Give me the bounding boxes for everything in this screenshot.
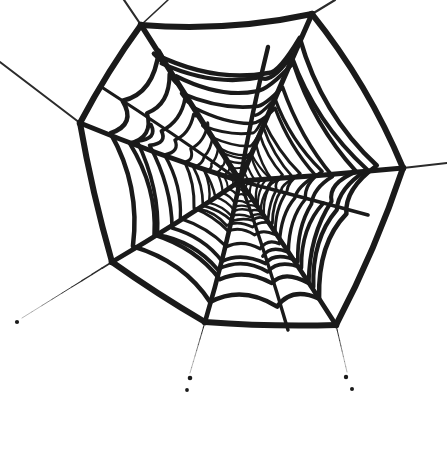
dot-lower-left (15, 320, 19, 324)
frame-anchor-lower-right (333, 322, 340, 329)
spider-web-figure (0, 0, 447, 451)
drawing-canvas (0, 0, 447, 451)
dot-bottom-right-a (344, 375, 348, 379)
frame-anchor-upper-right (400, 165, 407, 172)
frame-anchor-bottom (202, 319, 209, 326)
dot-bottom-b (185, 388, 189, 392)
dot-bottom-right-b (350, 387, 354, 391)
dot-bottom-a (188, 376, 193, 381)
frame-anchor-top-right (309, 11, 316, 18)
frame-anchor-lower-left (109, 259, 116, 266)
frame-anchor-left (77, 120, 84, 127)
frame-anchor-top-left (138, 22, 145, 29)
frame-edge-3 (205, 322, 336, 326)
